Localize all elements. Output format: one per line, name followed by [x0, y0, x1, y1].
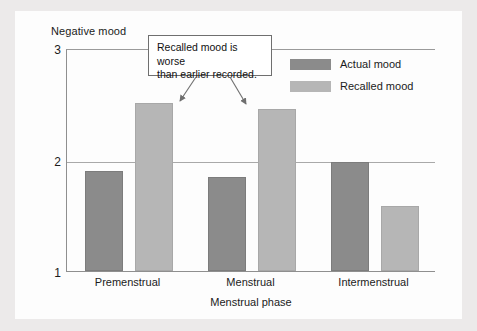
x-tick-label: Premenstrual — [95, 276, 160, 288]
x-axis-title: Menstrual phase — [210, 296, 291, 308]
annotation-callout: Recalled mood is worse than earlier reco… — [148, 35, 272, 76]
bar-recalled-menstrual — [258, 109, 296, 271]
legend-item-actual[interactable]: Actual mood — [290, 54, 413, 74]
bar-recalled-premenstrual — [135, 103, 173, 271]
x-tick-label: Intermenstrual — [338, 276, 408, 288]
legend-swatch-recalled — [290, 81, 331, 92]
x-tick-label: Menstrual — [226, 276, 274, 288]
chart-legend: Actual mood Recalled mood — [290, 54, 413, 98]
bar-recalled-intermenstrual — [381, 206, 419, 271]
y-tick-label: 1 — [54, 267, 61, 279]
y-tick-label: 2 — [54, 156, 61, 168]
bar-actual-intermenstrual — [331, 162, 369, 271]
legend-label-actual: Actual mood — [340, 58, 401, 70]
legend-item-recalled[interactable]: Recalled mood — [290, 76, 413, 96]
legend-label-recalled: Recalled mood — [340, 80, 413, 92]
y-tick-label: 3 — [54, 44, 61, 56]
chart-figure: Negative mood 123 Menstrual phase Actual… — [0, 0, 477, 331]
annotation-callout-text: Recalled mood is worse than earlier reco… — [157, 41, 264, 82]
bar-actual-menstrual — [208, 177, 246, 271]
gridline — [67, 162, 435, 163]
y-axis-label: Negative mood — [51, 25, 126, 37]
bar-actual-premenstrual — [85, 171, 123, 271]
legend-swatch-actual — [290, 59, 331, 70]
